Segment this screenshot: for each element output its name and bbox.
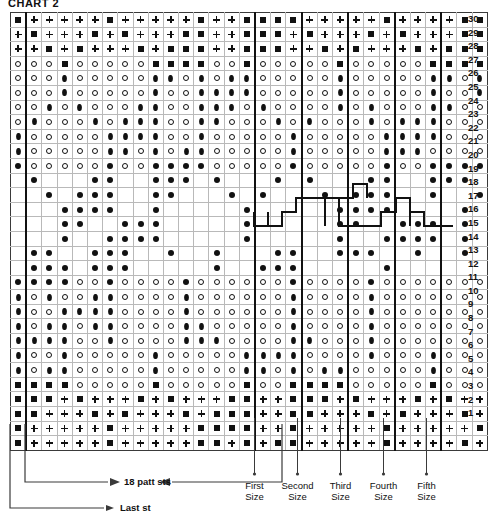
chart-cell-filled-diamond-stitch bbox=[255, 100, 271, 115]
chart-cell-open-circle-stitch bbox=[179, 377, 194, 392]
filled-diamond-stitch-icon bbox=[276, 118, 281, 125]
filled-square-stitch-icon bbox=[275, 46, 281, 52]
plus-stitch-icon bbox=[260, 440, 267, 447]
chart-cell-empty-cell bbox=[395, 202, 411, 217]
open-circle-stitch-icon bbox=[368, 75, 374, 81]
open-circle-stitch-icon bbox=[384, 367, 390, 373]
chart-cell-empty-cell bbox=[194, 173, 209, 188]
plus-stitch-icon bbox=[61, 410, 68, 417]
open-circle-stitch-icon bbox=[307, 90, 313, 96]
chart-cell-plus-stitch bbox=[179, 392, 194, 407]
filled-dot-stitch-icon bbox=[107, 192, 113, 198]
chart-cell-open-circle-stitch bbox=[302, 363, 318, 378]
filled-diamond-stitch-icon bbox=[16, 337, 21, 344]
filled-square-stitch-icon bbox=[337, 382, 343, 388]
filled-square-stitch-icon bbox=[15, 440, 21, 446]
open-circle-stitch-icon bbox=[92, 75, 98, 81]
chart-cell-open-circle-stitch bbox=[348, 275, 364, 290]
chart-cell-open-circle-stitch bbox=[87, 144, 102, 159]
chart-table bbox=[10, 12, 488, 451]
filled-square-stitch-icon bbox=[46, 396, 52, 402]
chart-cell-plus-stitch bbox=[194, 407, 209, 422]
open-circle-stitch-icon bbox=[229, 309, 235, 315]
open-circle-stitch-icon bbox=[107, 90, 113, 96]
open-circle-stitch-icon bbox=[415, 75, 421, 81]
chart-cell-open-circle-stitch bbox=[72, 158, 87, 173]
open-circle-stitch-icon bbox=[275, 148, 281, 154]
chart-cell-filled-diamond-stitch bbox=[426, 129, 442, 144]
chart-cell-empty-cell bbox=[379, 217, 395, 232]
chart-cell-empty-cell bbox=[286, 217, 302, 232]
open-circle-stitch-icon bbox=[62, 104, 68, 110]
chart-cell-empty-cell bbox=[441, 246, 457, 261]
row-number: 14 bbox=[468, 230, 479, 244]
open-circle-stitch-icon bbox=[462, 323, 468, 329]
chart-cell-empty-cell bbox=[163, 231, 178, 246]
chart-cell-open-circle-stitch bbox=[194, 290, 209, 305]
chart-cell-open-circle-stitch bbox=[348, 129, 364, 144]
open-circle-stitch-icon bbox=[462, 367, 468, 373]
chart-cell-plus-stitch bbox=[42, 421, 57, 436]
filled-square-stitch-icon bbox=[462, 440, 468, 446]
filled-dot-stitch-icon bbox=[244, 221, 250, 227]
plus-stitch-icon bbox=[275, 396, 282, 403]
chart-cell-open-circle-stitch bbox=[87, 71, 102, 86]
filled-square-stitch-icon bbox=[260, 17, 266, 23]
open-circle-stitch-icon bbox=[77, 367, 83, 373]
chart-cell-filled-dot-stitch bbox=[348, 188, 364, 203]
chart-cell-plus-stitch bbox=[118, 436, 133, 451]
chart-cell-filled-dot-stitch bbox=[239, 231, 255, 246]
filled-dot-stitch-icon bbox=[153, 192, 159, 198]
chart-cell-filled-square-stitch bbox=[224, 392, 239, 407]
open-circle-stitch-icon bbox=[290, 61, 296, 67]
open-circle-stitch-icon bbox=[322, 61, 328, 67]
open-circle-stitch-icon bbox=[353, 61, 359, 67]
filled-diamond-stitch-icon bbox=[291, 294, 296, 301]
open-circle-stitch-icon bbox=[229, 338, 235, 344]
filled-square-stitch-icon bbox=[168, 61, 174, 67]
plus-stitch-icon bbox=[383, 45, 390, 52]
chart-cell-filled-square-stitch bbox=[194, 27, 209, 42]
open-circle-stitch-icon bbox=[229, 119, 235, 125]
chart-cell-filled-dot-stitch bbox=[271, 261, 286, 276]
chart-cell-plus-stitch bbox=[441, 421, 457, 436]
chart-cell-filled-diamond-stitch bbox=[209, 115, 224, 130]
open-circle-stitch-icon bbox=[122, 75, 128, 81]
plus-stitch-icon bbox=[383, 410, 390, 417]
filled-diamond-stitch-icon bbox=[291, 337, 296, 344]
chart-cell-open-circle-stitch bbox=[441, 85, 457, 100]
row-number: 9 bbox=[468, 297, 479, 311]
chart-cell-plus-stitch bbox=[209, 392, 224, 407]
chart-cell-open-circle-stitch bbox=[118, 348, 133, 363]
chart-cell-open-circle-stitch bbox=[118, 158, 133, 173]
filled-diamond-stitch-icon bbox=[108, 294, 113, 301]
filled-dot-stitch-icon bbox=[353, 250, 359, 256]
chart-cell-open-circle-stitch bbox=[317, 144, 332, 159]
row-number: 21 bbox=[468, 134, 479, 148]
filled-diamond-stitch-icon bbox=[291, 352, 296, 359]
filled-square-stitch-icon bbox=[31, 382, 37, 388]
chart-cell-empty-cell bbox=[286, 202, 302, 217]
open-circle-stitch-icon bbox=[275, 338, 281, 344]
chart-cell-filled-diamond-stitch bbox=[255, 348, 271, 363]
open-circle-stitch-icon bbox=[46, 352, 52, 358]
chart-cell-open-circle-stitch bbox=[364, 363, 379, 378]
open-circle-stitch-icon bbox=[168, 338, 174, 344]
row-number: 20 bbox=[468, 148, 479, 162]
chart-cell-filled-diamond-stitch bbox=[133, 129, 148, 144]
chart-cell-open-circle-stitch bbox=[179, 85, 194, 100]
plus-stitch-icon bbox=[122, 396, 129, 403]
filled-square-stitch-icon bbox=[275, 440, 281, 446]
chart-cell-filled-square-stitch bbox=[194, 13, 209, 28]
chart-cell-plus-stitch bbox=[194, 392, 209, 407]
chart-cell-filled-diamond-stitch bbox=[11, 144, 27, 159]
chart-cell-filled-square-stitch bbox=[103, 436, 118, 451]
chart-cell-filled-square-stitch bbox=[194, 421, 209, 436]
open-circle-stitch-icon bbox=[138, 382, 144, 388]
chart-cell-open-circle-stitch bbox=[255, 115, 271, 130]
open-circle-stitch-icon bbox=[153, 338, 159, 344]
chart-cell-filled-dot-stitch bbox=[103, 246, 118, 261]
chart-cell-open-circle-stitch bbox=[410, 334, 425, 349]
filled-dot-stitch-icon bbox=[462, 177, 468, 183]
filled-diamond-stitch-icon bbox=[16, 148, 21, 155]
